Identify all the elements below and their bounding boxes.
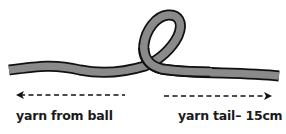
yarn-from-ball-label: yarn from ball [16, 108, 113, 123]
arrow-right-icon [164, 92, 272, 100]
yarn-tail-label: yarn tail– 15cm [178, 108, 282, 123]
arrow-left-icon [16, 91, 125, 99]
yarn-strand [9, 15, 279, 76]
